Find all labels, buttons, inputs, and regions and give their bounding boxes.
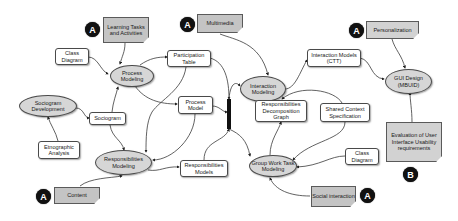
badge-b-evaluation: B <box>403 167 418 182</box>
badge-b-label: B <box>407 170 414 180</box>
note-evaluation: Evaluation of User Interface Usability r… <box>386 122 442 162</box>
badge-a-content: A <box>36 189 51 204</box>
artifact-process-model-label: Process Model <box>179 99 212 112</box>
artifact-participation-table: Participation Table <box>167 50 211 67</box>
artifact-participation-table-label: Participation Table <box>168 52 210 65</box>
activity-sociogram-development: Sociogram Development <box>19 95 77 117</box>
badge-a-label: A <box>364 191 371 201</box>
note-evaluation-label: Evaluation of User Interface Usability r… <box>389 132 439 151</box>
badge-a-social-interaction: A <box>360 188 375 203</box>
note-multimedia-label: Multimedia <box>206 20 233 26</box>
activity-responsibilities-modeling-label: Responsibilities Modeling <box>96 156 151 169</box>
note-personalization: Personalization <box>366 21 419 39</box>
badge-a-learning-tasks: A <box>85 22 100 37</box>
artifact-responsibilities-models-label: Responsibilities Models <box>181 162 227 175</box>
note-learning-tasks-label: Learning Tasks and Activities <box>104 24 148 37</box>
artifact-class-diagram-right: Class Diagram <box>345 148 379 165</box>
artifact-ethnographic-analysis: Etnographic Analysis <box>38 141 80 159</box>
note-personalization-label: Personalization <box>373 27 411 33</box>
activity-interaction-modeling: Interaction Modeling <box>240 76 286 102</box>
synchronization-bar <box>227 99 231 129</box>
badge-a-label: A <box>184 20 191 30</box>
artifact-interaction-models-ctt-label: Interaction Models (CTT) <box>308 52 360 65</box>
note-content-label: Content <box>67 192 87 198</box>
note-social-interaction-label: Social interaction <box>312 193 355 199</box>
badge-a-personalization: A <box>349 23 364 38</box>
activity-group-work-task-modeling: Group Work Task Modeling <box>249 155 297 177</box>
artifact-sociogram: Sociogram <box>89 112 126 125</box>
artifact-ethnographic-analysis-label: Etnographic Analysis <box>39 144 79 157</box>
artifact-class-diagram-left-label: Class Diagram <box>56 50 88 63</box>
artifact-sociogram-label: Sociogram <box>94 115 121 121</box>
methodology-diagram: Learning Tasks and Activities A Multimed… <box>0 0 458 221</box>
badge-a-label: A <box>40 192 47 202</box>
activity-process-modeling: Process Modeling <box>110 65 154 87</box>
note-learning-tasks: Learning Tasks and Activities <box>103 17 149 43</box>
artifact-class-diagram-left: Class Diagram <box>55 48 89 65</box>
activity-gui-design: GUI Design (MBUID) <box>385 69 432 94</box>
activity-process-modeling-label: Process Modeling <box>111 70 153 83</box>
artifact-class-diagram-right-label: Class Diagram <box>346 150 378 163</box>
note-social-interaction: Social interaction <box>311 186 356 207</box>
artifact-responsibilities-models: Responsibilities Models <box>180 160 228 177</box>
activity-interaction-modeling-label: Interaction Modeling <box>241 83 285 96</box>
artifact-shared-context-specification: Shared Context Specification <box>320 103 370 122</box>
artifact-interaction-models-ctt: Interaction Models (CTT) <box>307 49 361 67</box>
badge-a-multimedia: A <box>180 17 195 32</box>
note-multimedia: Multimedia <box>197 14 243 33</box>
activity-group-work-task-modeling-label: Group Work Task Modeling <box>250 160 296 173</box>
note-content: Content <box>54 187 100 204</box>
activity-sociogram-development-label: Sociogram Development <box>20 100 76 113</box>
badge-a-label: A <box>353 26 360 36</box>
artifact-responsibilities-decomposition-graph-label: Responsibilities Decomposition Graph <box>256 101 306 120</box>
artifact-responsibilities-decomposition-graph: Responsibilities Decomposition Graph <box>255 100 307 122</box>
badge-a-label: A <box>89 25 96 35</box>
artifact-process-model: Process Model <box>178 96 213 114</box>
activity-responsibilities-modeling: Responsibilities Modeling <box>95 150 152 175</box>
activity-gui-design-label: GUI Design (MBUID) <box>386 75 431 88</box>
artifact-shared-context-specification-label: Shared Context Specification <box>321 106 369 119</box>
